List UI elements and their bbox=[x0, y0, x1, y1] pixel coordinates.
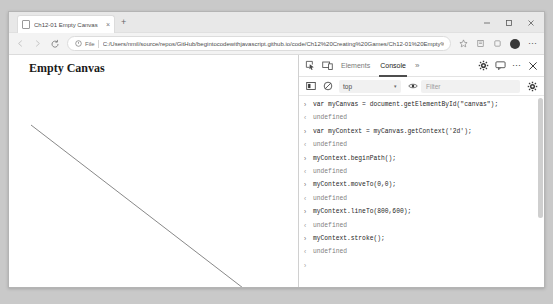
page-title: Empty Canvas bbox=[29, 61, 105, 76]
console-input-row: ›myContext.stroke(); bbox=[299, 232, 544, 245]
address-bar[interactable]: File C:/Users/nmil/source/repos/GitHub/b… bbox=[67, 36, 451, 51]
navigation-bar: File C:/Users/nmil/source/repos/GitHub/b… bbox=[9, 33, 544, 55]
console-entry-text: myContext.lineTo(800,600); bbox=[313, 205, 411, 218]
execution-context-select[interactable]: top ▾ bbox=[339, 80, 401, 93]
url-text: C:/Users/nmil/source/repos/GitHub/begint… bbox=[103, 41, 444, 47]
console-output-row: ‹undefined bbox=[299, 192, 544, 205]
avatar[interactable] bbox=[510, 39, 520, 49]
console-entry-text: undefined bbox=[313, 165, 347, 178]
devtools-more-button[interactable]: ⋯ bbox=[509, 61, 525, 71]
browser-window: Ch12-01 Empty Canvas × + bbox=[8, 11, 545, 288]
console-marker-icon: ‹ bbox=[304, 138, 313, 151]
console-output-row: ‹undefined bbox=[299, 245, 544, 258]
inspect-element-icon[interactable] bbox=[302, 57, 319, 74]
console-output-row: ‹undefined bbox=[299, 138, 544, 151]
devtools-overflow-button[interactable]: » bbox=[411, 61, 423, 70]
console-marker-icon: ‹ bbox=[304, 245, 313, 258]
devtools-toolbar: Elements Console » bbox=[299, 55, 544, 77]
scheme-label: File bbox=[85, 41, 95, 47]
filter-input[interactable] bbox=[426, 83, 515, 90]
console-marker-icon: › bbox=[304, 232, 313, 245]
console-entry-text: var myContext = myCanvas.getContext('2d'… bbox=[313, 125, 472, 138]
maximize-button[interactable] bbox=[498, 12, 520, 33]
tab-elements[interactable]: Elements bbox=[336, 55, 375, 77]
page-viewport: Empty Canvas bbox=[9, 55, 299, 288]
console-log-rows: ›var myCanvas = document.getElementById(… bbox=[299, 98, 544, 273]
console-filter[interactable] bbox=[421, 80, 520, 93]
console-output-row: ‹undefined bbox=[299, 111, 544, 124]
console-toolbar: top ▾ bbox=[299, 77, 544, 96]
live-expression-icon[interactable] bbox=[404, 78, 421, 95]
console-marker-icon: › bbox=[304, 125, 313, 138]
console-entry-text: undefined bbox=[313, 138, 347, 151]
console-input-row: ›var myContext = myCanvas.getContext('2d… bbox=[299, 125, 544, 138]
console-input-row: ›myContext.moveTo(0,0); bbox=[299, 178, 544, 191]
close-devtools-icon[interactable] bbox=[524, 57, 541, 74]
star-icon[interactable] bbox=[455, 35, 472, 52]
console-input-row: ›myContext.beginPath(); bbox=[299, 152, 544, 165]
console-marker-icon: › bbox=[304, 98, 313, 111]
extensions-icon[interactable] bbox=[489, 35, 506, 52]
console-entry-text: myContext.beginPath(); bbox=[313, 152, 396, 165]
console-input-row: ›myContext.lineTo(800,600); bbox=[299, 205, 544, 218]
console-sidebar-icon[interactable] bbox=[302, 78, 319, 95]
collections-icon[interactable] bbox=[472, 35, 489, 52]
console-entry-text: undefined bbox=[313, 219, 347, 232]
window-body: Empty Canvas bbox=[9, 55, 544, 288]
console-output-row: ‹undefined bbox=[299, 165, 544, 178]
console-entry-text: undefined bbox=[313, 111, 347, 124]
console-marker-icon: ‹ bbox=[304, 219, 313, 232]
tab-console[interactable]: Console bbox=[375, 55, 411, 77]
clear-console-icon[interactable] bbox=[319, 78, 336, 95]
console-entry-text: var myCanvas = document.getElementById("… bbox=[313, 98, 498, 111]
console-scrollbar[interactable] bbox=[537, 96, 544, 288]
devtools-panel: Elements Console » bbox=[299, 55, 544, 288]
console-marker-icon: ‹ bbox=[304, 111, 313, 124]
new-tab-button[interactable]: + bbox=[121, 18, 126, 27]
scrollbar-thumb[interactable] bbox=[538, 98, 543, 218]
console-marker-icon: ‹ bbox=[304, 192, 313, 205]
html-canvas[interactable] bbox=[22, 77, 299, 288]
feedback-icon[interactable] bbox=[492, 57, 509, 74]
minimize-button[interactable] bbox=[476, 12, 498, 33]
browser-menu-button[interactable]: ⋯ bbox=[524, 35, 541, 52]
gear-icon[interactable] bbox=[475, 57, 492, 74]
console-entry-text: undefined bbox=[313, 192, 347, 205]
console-settings-gear-icon[interactable] bbox=[524, 78, 541, 95]
console-marker-icon: › bbox=[304, 259, 313, 272]
page-icon bbox=[22, 20, 30, 29]
console-log[interactable]: ›var myCanvas = document.getElementById(… bbox=[299, 96, 544, 288]
reload-icon[interactable] bbox=[46, 35, 63, 52]
console-marker-icon: › bbox=[304, 205, 313, 218]
omnibox-divider bbox=[98, 40, 99, 48]
file-icon bbox=[74, 40, 82, 48]
close-icon[interactable]: × bbox=[106, 21, 110, 28]
console-entry-text: undefined bbox=[313, 245, 347, 258]
console-marker-icon: › bbox=[304, 178, 313, 191]
execution-context-label: top bbox=[343, 83, 394, 90]
console-marker-icon: › bbox=[304, 152, 313, 165]
device-toolbar-icon[interactable] bbox=[319, 57, 336, 74]
desktop-background: Ch12-01 Empty Canvas × + bbox=[0, 0, 553, 304]
arrow-right-icon[interactable] bbox=[29, 35, 46, 52]
arrow-left-icon[interactable] bbox=[12, 35, 29, 52]
close-window-button[interactable] bbox=[520, 12, 542, 33]
canvas-drawing bbox=[22, 77, 299, 288]
tab-title: Ch12-01 Empty Canvas bbox=[34, 22, 103, 28]
console-marker-icon: ‹ bbox=[304, 165, 313, 178]
console-input-row: ›var myCanvas = document.getElementById(… bbox=[299, 98, 544, 111]
console-prompt-row[interactable]: › bbox=[299, 259, 544, 273]
console-output-row: ‹undefined bbox=[299, 219, 544, 232]
window-controls bbox=[476, 12, 542, 33]
toolbar-actions: ⋯ bbox=[455, 35, 541, 52]
console-entry-text: myContext.stroke(); bbox=[313, 232, 385, 245]
browser-tab[interactable]: Ch12-01 Empty Canvas × bbox=[17, 15, 115, 33]
chevron-down-icon: ▾ bbox=[394, 83, 397, 89]
console-entry-text: myContext.moveTo(0,0); bbox=[313, 178, 396, 191]
tab-strip: Ch12-01 Empty Canvas × + bbox=[9, 12, 544, 33]
